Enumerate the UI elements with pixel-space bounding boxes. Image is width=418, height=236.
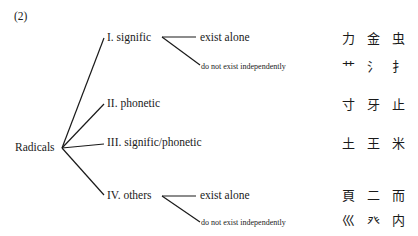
examples-others-dependent: 巛 癶 内 [342,214,409,227]
root-label: Radicals [15,142,55,154]
signific-exist-alone: exist alone [200,32,250,44]
branch-others: IV. others [107,190,152,202]
branch-signific-phonetic: III. signific/phonetic [107,137,202,149]
examples-signific-phonetic: 土 王 米 [342,137,409,150]
branch-phonetic: II. phonetic [107,98,160,110]
figure-label: (2) [14,11,27,23]
others-not-independent: do not exist independently [201,219,286,227]
examples-others-alone: 頁 二 而 [342,189,409,202]
others-exist-alone: exist alone [200,190,250,202]
examples-signific-alone: 力 金 虫 [342,32,409,45]
branch-signific: I. signific [107,32,151,44]
examples-phonetic: 寸 牙 止 [342,98,409,111]
signific-not-independent: do not exist independently [201,63,286,71]
examples-signific-dependent: 艹 氵 扌 [342,60,409,73]
